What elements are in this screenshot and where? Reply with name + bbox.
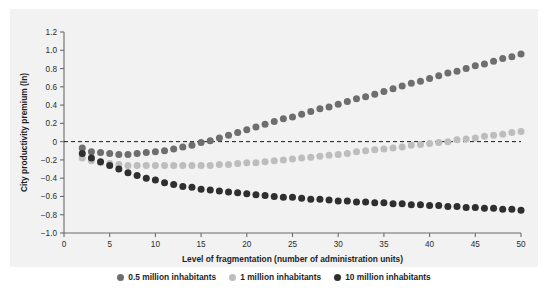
data-point — [134, 172, 141, 179]
legend-marker-circle-icon — [334, 274, 341, 281]
data-point — [234, 189, 241, 196]
data-point — [198, 162, 205, 169]
data-point — [435, 202, 442, 209]
data-point — [307, 154, 314, 161]
data-point — [79, 150, 86, 157]
data-point — [243, 190, 250, 197]
data-point — [444, 203, 451, 210]
data-point — [444, 138, 451, 145]
data-point — [271, 193, 278, 200]
data-point — [454, 203, 461, 210]
data-point — [252, 124, 259, 131]
data-point — [435, 72, 442, 79]
plot-area: −1.0−0.8−0.6−0.4−0.200.20.40.60.81.01.20… — [0, 0, 548, 302]
legend-item-label: 0.5 million inhabitants — [128, 272, 216, 282]
data-point — [225, 188, 232, 195]
data-point — [207, 137, 214, 144]
data-point — [298, 195, 305, 202]
data-point — [481, 60, 488, 67]
data-point — [362, 93, 369, 100]
data-point — [508, 53, 515, 60]
series-2-points — [79, 128, 525, 169]
y-tick-label: 0.4 — [46, 101, 58, 110]
data-point — [134, 150, 141, 157]
x-tick-label: 50 — [516, 240, 526, 249]
data-point — [115, 151, 122, 158]
data-point — [280, 194, 287, 201]
data-point — [179, 144, 186, 151]
x-tick-label: 30 — [334, 240, 344, 249]
data-point — [335, 101, 342, 108]
data-point — [207, 162, 214, 169]
data-point — [481, 205, 488, 212]
data-point — [390, 145, 397, 152]
data-point — [380, 199, 387, 206]
data-point — [499, 55, 506, 62]
data-point — [170, 181, 177, 188]
legend-marker-circle-icon — [229, 274, 236, 281]
data-point — [380, 145, 387, 152]
legend-item-label: 1 million inhabitants — [240, 272, 321, 282]
y-tick-label: 1.0 — [46, 46, 58, 55]
data-point — [216, 134, 223, 141]
data-point — [262, 158, 269, 165]
data-point — [280, 115, 287, 122]
data-point — [426, 75, 433, 82]
x-tick-label: 25 — [288, 240, 298, 249]
data-point — [426, 140, 433, 147]
data-point — [408, 201, 415, 208]
data-point — [518, 207, 525, 214]
data-point — [225, 161, 232, 168]
data-point — [481, 133, 488, 140]
data-point — [390, 85, 397, 92]
data-point — [188, 184, 195, 191]
legend-item: 10 million inhabitants — [334, 272, 431, 282]
data-point — [499, 131, 506, 138]
x-tick-label: 35 — [379, 240, 389, 249]
data-point — [188, 162, 195, 169]
data-point — [408, 142, 415, 149]
data-point — [262, 192, 269, 199]
y-tick-label: −1.0 — [41, 229, 58, 238]
data-point — [417, 201, 424, 208]
data-point — [243, 126, 250, 133]
data-point — [262, 121, 269, 128]
data-point — [161, 147, 168, 154]
data-point — [472, 62, 479, 69]
data-point — [463, 204, 470, 211]
data-point — [225, 132, 232, 139]
data-point — [170, 145, 177, 152]
data-point — [143, 149, 150, 156]
data-point — [88, 148, 95, 155]
data-point — [307, 108, 314, 115]
data-point — [353, 148, 360, 155]
data-point — [472, 134, 479, 141]
data-point — [472, 204, 479, 211]
data-point — [353, 198, 360, 205]
data-point — [426, 202, 433, 209]
y-tick-label: 0 — [52, 138, 57, 147]
data-point — [454, 136, 461, 143]
data-point — [508, 129, 515, 136]
data-point — [271, 157, 278, 164]
data-point — [134, 162, 141, 169]
data-point — [362, 147, 369, 154]
data-point — [216, 187, 223, 194]
data-point — [280, 156, 287, 163]
x-tick-label: 5 — [107, 240, 112, 249]
x-tick-label: 15 — [197, 240, 207, 249]
data-point — [252, 159, 259, 166]
data-point — [316, 196, 323, 203]
x-axis-title: Level of fragmentation (number of admini… — [182, 254, 403, 264]
legend-item: 0.5 million inhabitants — [117, 272, 216, 282]
data-point — [97, 149, 104, 156]
data-point — [399, 144, 406, 151]
y-tick-label: 0.6 — [46, 83, 58, 92]
data-point — [353, 95, 360, 102]
data-point — [335, 198, 342, 205]
data-point — [399, 200, 406, 207]
y-axis-title: City productivity premium (ln) — [19, 73, 29, 192]
y-tick-label: −0.2 — [41, 156, 58, 165]
data-point — [417, 78, 424, 85]
data-point — [188, 142, 195, 149]
